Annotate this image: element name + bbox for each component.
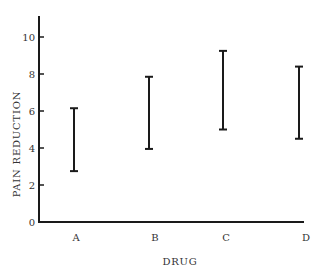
x-tick-label-a: A bbox=[71, 232, 80, 243]
error-bar-c bbox=[219, 51, 227, 130]
x-tick-label-c: C bbox=[222, 232, 230, 243]
x-axis-title: DRUG bbox=[162, 256, 197, 267]
y-tick-label: 10 bbox=[22, 32, 35, 43]
x-axis: ABCD bbox=[38, 222, 310, 243]
y-axis-title: PAIN REDUCTION bbox=[11, 91, 22, 198]
error-bar-d bbox=[295, 67, 303, 139]
y-tick-label: 4 bbox=[29, 143, 35, 154]
error-bars bbox=[70, 51, 303, 171]
y-tick-label: 6 bbox=[29, 106, 35, 117]
y-tick-label: 0 bbox=[29, 217, 35, 228]
y-tick-label: 8 bbox=[29, 69, 35, 80]
x-tick-label-d: D bbox=[302, 232, 310, 243]
error-bar-b bbox=[145, 77, 153, 149]
error-bar-a bbox=[70, 108, 78, 171]
y-tick-label: 2 bbox=[29, 180, 35, 191]
y-axis: 0246810 bbox=[22, 16, 44, 228]
error-bar-chart: 0246810 ABCD DRUG PAIN REDUCTION bbox=[0, 0, 319, 272]
x-tick-label-b: B bbox=[151, 232, 158, 243]
